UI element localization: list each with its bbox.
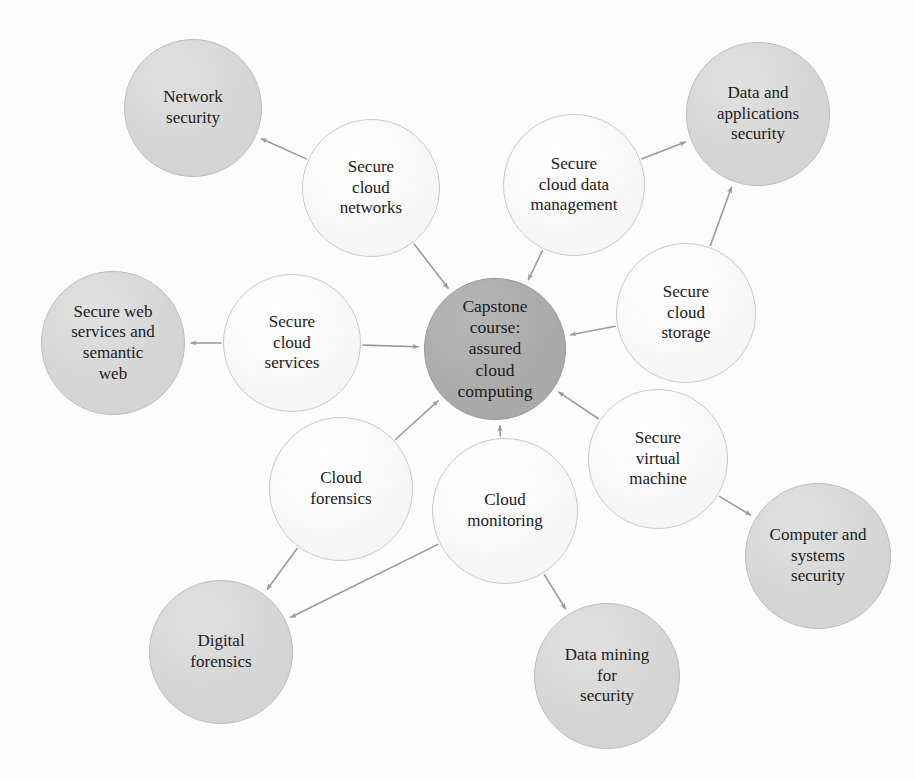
node-hub[interactable]: Capstone course: assured cloud computing <box>424 278 566 420</box>
node-secure-cloud-networks[interactable]: Secure cloud networks <box>302 119 440 257</box>
node-secure-cloud-services[interactable]: Secure cloud services <box>223 274 361 412</box>
edge-cloud-forensics-to-hub <box>396 401 438 439</box>
node-network-security[interactable]: Network security <box>124 39 262 177</box>
edge-secure-cloud-data-management-to-data-and-applications-security <box>642 142 685 159</box>
node-label: Computer and systems security <box>762 525 875 587</box>
edge-secure-cloud-data-management-to-hub <box>528 251 542 280</box>
node-label: Capstone course: assured cloud computing <box>450 296 541 403</box>
edge-cloud-monitoring-to-hub <box>500 426 501 436</box>
node-label: Secure web services and semantic web <box>63 302 163 385</box>
node-data-and-applications-security[interactable]: Data and applications security <box>686 42 830 186</box>
node-label: Data and applications security <box>709 83 807 145</box>
edge-secure-cloud-storage-to-data-and-applications-security <box>710 187 731 245</box>
node-label: Cloud forensics <box>302 468 379 509</box>
diagram-canvas: Capstone course: assured cloud computing… <box>0 0 915 779</box>
node-label: Cloud monitoring <box>459 490 551 531</box>
node-secure-cloud-storage[interactable]: Secure cloud storage <box>616 243 756 383</box>
node-digital-forensics[interactable]: Digital forensics <box>149 580 293 724</box>
edge-secure-cloud-networks-to-network-security <box>261 139 306 159</box>
node-label: Data mining for security <box>557 645 658 707</box>
node-secure-web-services-and-semantic-web[interactable]: Secure web services and semantic web <box>41 271 185 415</box>
node-data-mining-for-security[interactable]: Data mining for security <box>534 603 680 749</box>
node-label: Secure cloud storage <box>653 282 718 344</box>
node-secure-virtual-machine[interactable]: Secure virtual machine <box>588 389 728 529</box>
edge-secure-cloud-services-to-hub <box>363 345 418 347</box>
node-label: Network security <box>155 87 230 128</box>
edge-cloud-monitoring-to-data-mining-for-security <box>544 575 565 609</box>
node-label: Secure cloud services <box>257 312 328 374</box>
node-label: Secure virtual machine <box>621 428 695 490</box>
node-computer-and-systems-security[interactable]: Computer and systems security <box>745 483 891 629</box>
node-label: Secure cloud networks <box>332 157 410 219</box>
node-label: Digital forensics <box>182 631 259 672</box>
node-cloud-monitoring[interactable]: Cloud monitoring <box>432 438 578 584</box>
node-cloud-forensics[interactable]: Cloud forensics <box>269 417 413 561</box>
edge-secure-cloud-networks-to-hub <box>414 244 448 288</box>
edge-secure-cloud-storage-to-hub <box>571 326 616 334</box>
node-secure-cloud-data-management[interactable]: Secure cloud data management <box>503 114 645 256</box>
edge-secure-virtual-machine-to-hub <box>559 392 598 419</box>
node-label: Secure cloud data management <box>523 154 626 216</box>
edge-cloud-forensics-to-digital-forensics <box>267 549 297 590</box>
edge-secure-virtual-machine-to-computer-and-systems-security <box>720 496 751 515</box>
